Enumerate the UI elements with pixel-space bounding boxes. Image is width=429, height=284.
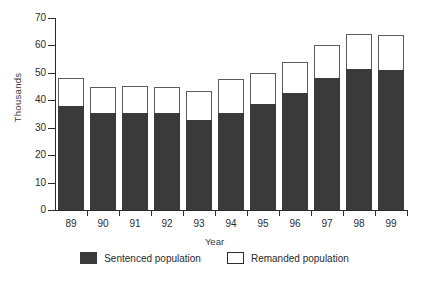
x-tick [151,211,152,216]
y-tick-label: 30 [22,123,46,133]
x-tick [87,211,88,216]
bar-89 [58,78,84,210]
bar-91 [122,86,148,210]
y-tick-label: 60 [22,40,46,50]
bar-96 [282,62,308,210]
x-tick-label: 99 [379,218,403,229]
bar-92 [154,87,180,210]
bar-segment-sentenced [90,113,116,210]
y-tick-label: 10 [22,178,46,188]
chart-title [52,0,352,3]
bar-segment-sentenced [282,93,308,210]
x-tick [407,211,408,216]
bar-segment-sentenced [186,120,212,211]
x-tick-label: 94 [219,218,243,229]
x-tick [215,211,216,216]
legend-item-remanded: Remanded population [227,252,349,264]
x-axis-line [55,210,408,211]
bar-segment-sentenced [154,113,180,210]
y-tick [48,18,55,19]
bar-93 [186,91,212,210]
legend-label-sentenced: Sentenced population [104,253,201,264]
x-tick [311,211,312,216]
x-tick-label: 96 [283,218,307,229]
sentenced-swatch-icon [80,252,97,264]
bar-95 [250,73,276,210]
bar-segment-sentenced [122,113,148,210]
y-tick-label: 20 [22,150,46,160]
x-tick-label: 97 [315,218,339,229]
y-tick-label: 40 [22,95,46,105]
x-tick [119,211,120,216]
stacked-bar-chart: Thousands 706050403020100 89909192939495… [0,0,429,284]
bar-segment-sentenced [314,78,340,210]
x-tick-label: 93 [187,218,211,229]
chart-legend: Sentenced population Remanded population [0,252,429,264]
x-tick [183,211,184,216]
y-tick-label: 0 [22,205,46,215]
y-tick [48,100,55,101]
x-axis-title: Year [0,236,429,247]
y-tick-label: 70 [22,13,46,23]
x-tick-label: 91 [123,218,147,229]
x-tick-label: 92 [155,218,179,229]
x-tick-label: 98 [347,218,371,229]
remanded-swatch-icon [227,252,244,264]
y-tick [48,45,55,46]
x-tick [247,211,248,216]
bar-99 [378,35,404,210]
bar-segment-sentenced [250,104,276,210]
bar-segment-sentenced [218,113,244,210]
bar-98 [346,34,372,210]
x-tick [279,211,280,216]
x-tick [375,211,376,216]
x-tick-label: 90 [91,218,115,229]
y-tick [48,210,55,211]
y-axis-title: Thousands [12,48,23,148]
legend-item-sentenced: Sentenced population [80,252,201,264]
y-tick [48,183,55,184]
x-tick-label: 89 [59,218,83,229]
x-tick-label: 95 [251,218,275,229]
y-tick [48,155,55,156]
bar-94 [218,79,244,210]
plot-area [55,18,407,210]
bar-90 [90,87,116,210]
y-tick-label: 50 [22,68,46,78]
bar-segment-sentenced [58,106,84,210]
bar-97 [314,45,340,210]
bar-segment-sentenced [378,70,404,210]
x-tick [343,211,344,216]
bar-segment-sentenced [346,69,372,210]
y-tick [48,73,55,74]
y-tick [48,128,55,129]
legend-label-remanded: Remanded population [251,253,349,264]
